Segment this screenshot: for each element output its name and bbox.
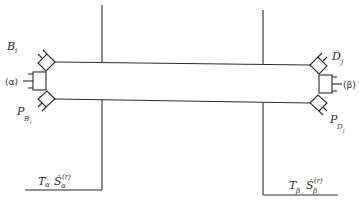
svg-text:β: β (312, 187, 317, 195)
svg-text:(r): (r) (62, 173, 71, 181)
diagram-lines (23, 5, 342, 195)
svg-text:B: B (23, 115, 29, 123)
svg-text:α: α (45, 181, 50, 189)
diagram-canvas: B i (α) P B i D j (β) P D j T α Ṡ α (r) … (0, 0, 359, 204)
svg-text:(r): (r) (314, 177, 323, 185)
svg-text:α: α (61, 182, 66, 190)
left-connector (23, 50, 55, 111)
label-Bi: B i (6, 40, 17, 55)
pipe-bottom (55, 99, 310, 103)
label-PDj: P D j (329, 113, 345, 134)
svg-text:i: i (30, 119, 32, 125)
svg-text:i: i (15, 47, 17, 55)
label-PBi: P B i (16, 105, 32, 125)
label-right-reservoir: T β Ṡ β (r) (289, 177, 323, 195)
label-beta: (β) (343, 80, 356, 90)
label-Dj: D j (331, 50, 344, 66)
svg-text:β: β (295, 187, 300, 195)
svg-text:D: D (336, 123, 343, 131)
label-alpha: (α) (5, 77, 18, 87)
pipe-top (55, 62, 310, 65)
label-left-reservoir: T α Ṡ α (r) (38, 173, 71, 190)
svg-text:B: B (6, 40, 15, 53)
svg-text:j: j (342, 127, 345, 134)
svg-text:D: D (331, 50, 341, 63)
